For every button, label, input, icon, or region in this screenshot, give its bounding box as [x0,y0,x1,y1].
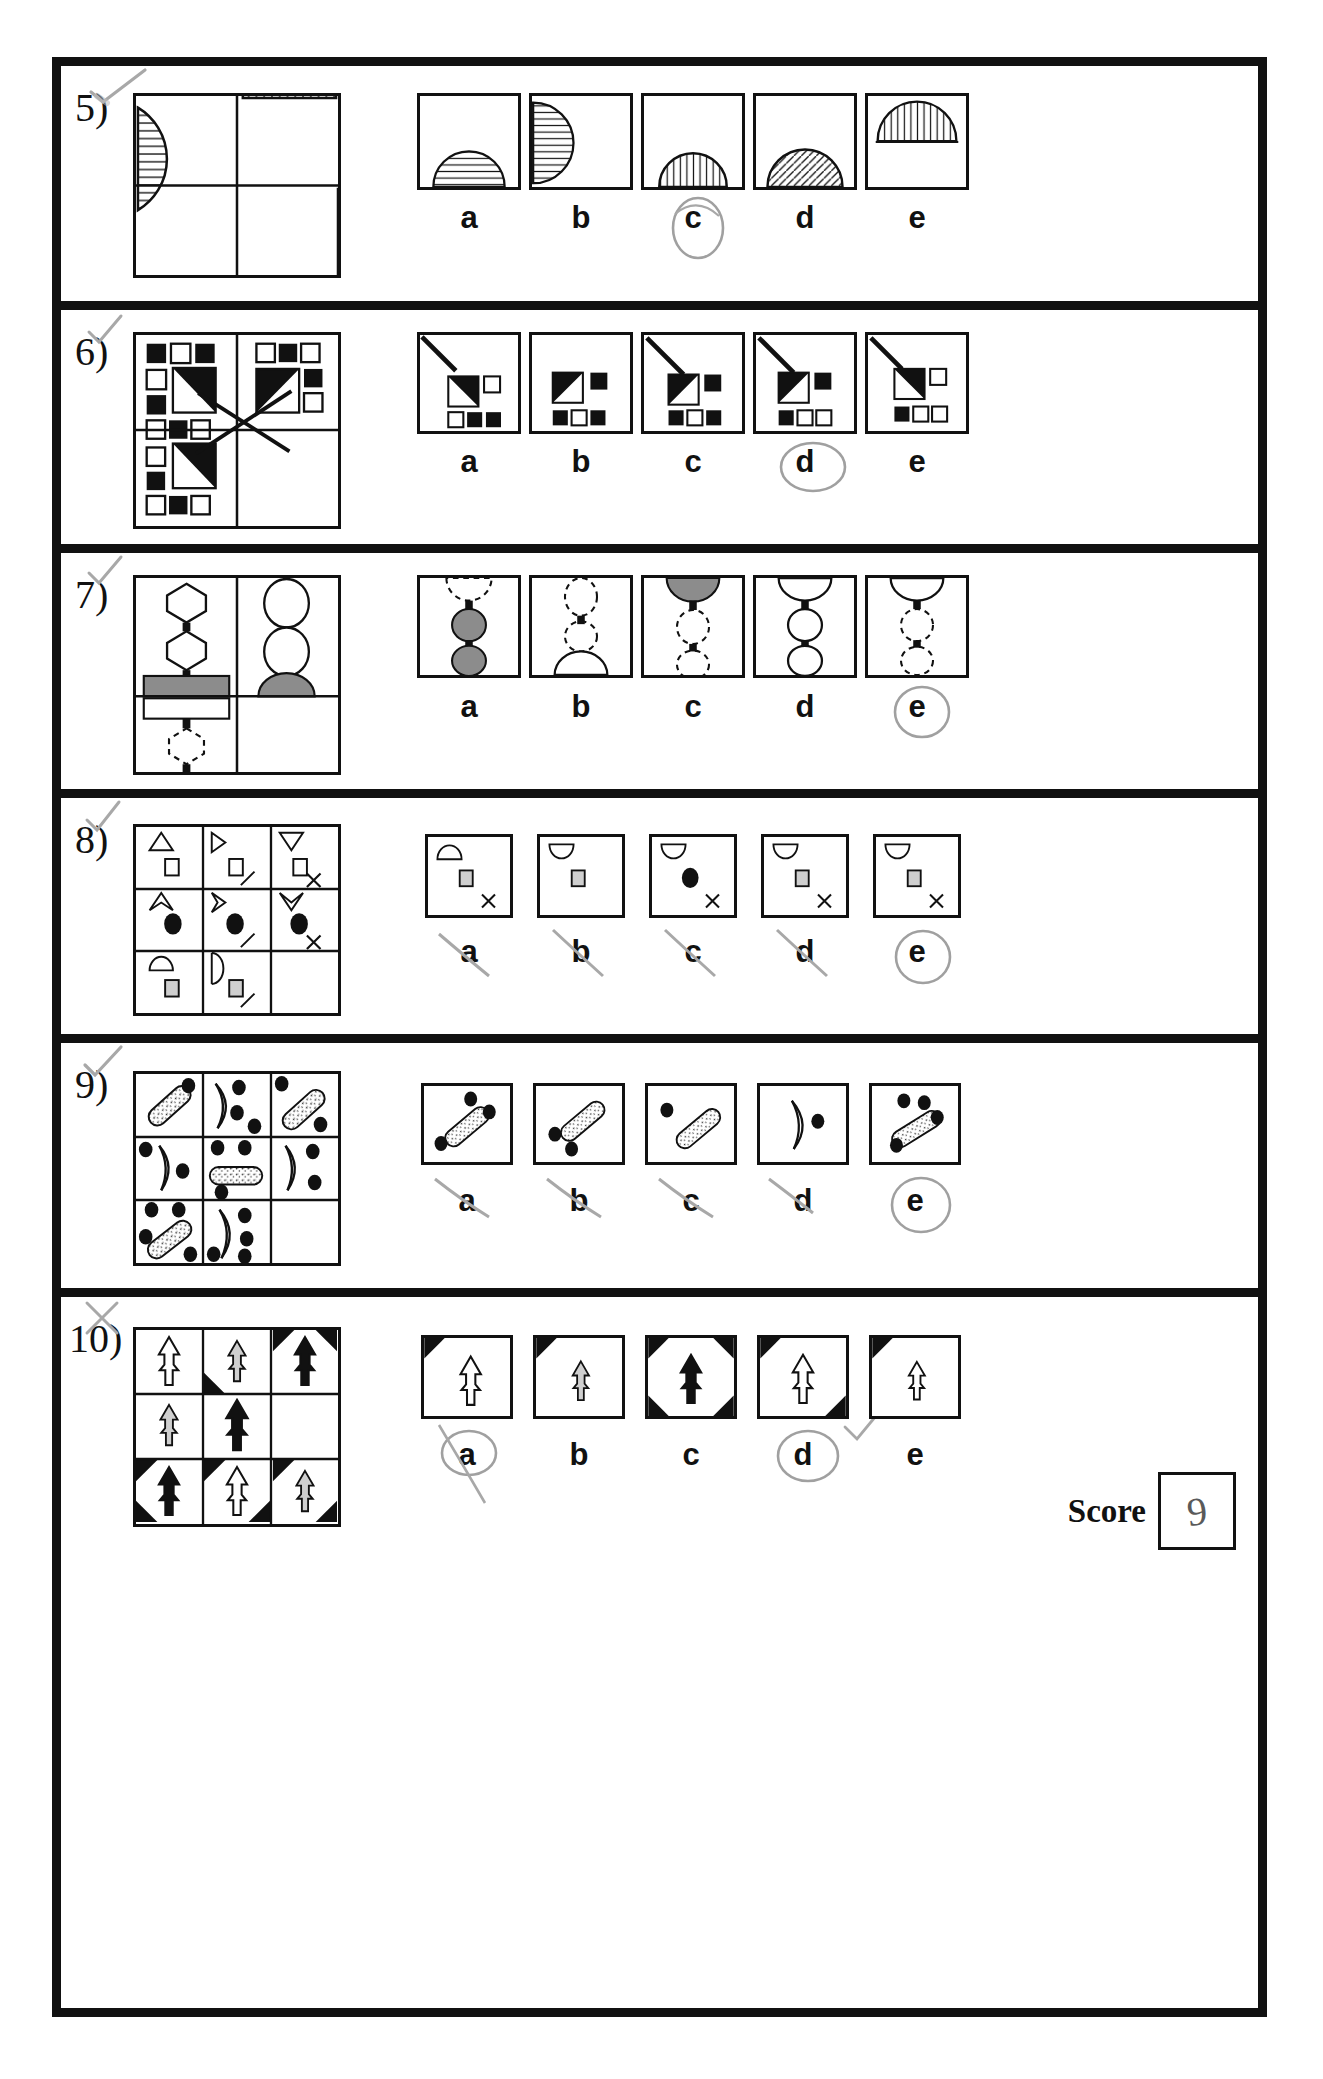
option-box-q7-a[interactable] [417,575,521,678]
option-label-q7-c[interactable]: c [641,689,745,725]
question-row-9: 9) [61,1043,1258,1297]
option-label-q8-e[interactable]: e [873,934,961,970]
option-label-q6-d[interactable]: d [753,444,857,480]
option-label-q6-c[interactable]: c [641,444,745,480]
option-box-q5-a[interactable] [417,93,521,190]
option-box-q10-b[interactable] [533,1335,625,1419]
option-label-q5-c[interactable]: c [641,200,745,236]
option-box-q8-c[interactable] [649,834,737,918]
option-box-q7-e[interactable] [865,575,969,678]
option-box-q8-d[interactable] [761,834,849,918]
option-box-q9-b[interactable] [533,1083,625,1165]
score-box[interactable]: 9 [1158,1472,1236,1550]
option-box-q6-b[interactable] [529,332,633,434]
option-label-q9-e[interactable]: e [869,1183,961,1219]
option-label-q9-a[interactable]: a [421,1183,513,1219]
matrix-q9 [133,1071,341,1266]
question-number-6: 6) [75,328,108,375]
question-row-6: 6) [61,310,1258,553]
option-box-q10-d[interactable] [757,1335,849,1419]
option-label-q10-d[interactable]: d [757,1437,849,1473]
option-label-q8-b[interactable]: b [537,934,625,970]
matrix-q6 [133,332,341,529]
option-label-q5-d[interactable]: d [753,200,857,236]
score-label: Score [1068,1493,1146,1530]
option-label-q9-d[interactable]: d [757,1183,849,1219]
option-label-q7-b[interactable]: b [529,689,633,725]
matrix-q10 [133,1327,341,1527]
option-label-q10-e[interactable]: e [869,1437,961,1473]
option-label-q10-b[interactable]: b [533,1437,625,1473]
option-box-q10-a[interactable] [421,1335,513,1419]
option-label-q7-e[interactable]: e [865,689,969,725]
option-label-q9-b[interactable]: b [533,1183,625,1219]
option-box-q7-b[interactable] [529,575,633,678]
option-box-q6-c[interactable] [641,332,745,434]
option-label-q5-e[interactable]: e [865,200,969,236]
option-box-q6-a[interactable] [417,332,521,434]
option-label-q10-a[interactable]: a [421,1437,513,1473]
option-label-q5-a[interactable]: a [417,200,521,236]
matrix-q8 [133,824,341,1016]
question-row-10: 10) [61,1297,1258,1566]
option-label-q7-a[interactable]: a [417,689,521,725]
question-row-5: 5) [61,66,1258,310]
option-box-q9-d[interactable] [757,1083,849,1165]
option-box-q9-a[interactable] [421,1083,513,1165]
option-label-q6-b[interactable]: b [529,444,633,480]
option-box-q6-e[interactable] [865,332,969,434]
question-number-9: 9) [75,1061,108,1108]
option-box-q5-d[interactable] [753,93,857,190]
option-box-q7-d[interactable] [753,575,857,678]
option-box-q7-c[interactable] [641,575,745,678]
question-number-7: 7) [75,571,108,618]
question-row-8: 8) [61,798,1258,1043]
question-row-7: 7) [61,553,1258,798]
option-label-q9-c[interactable]: c [645,1183,737,1219]
option-box-q9-e[interactable] [869,1083,961,1165]
matrix-q7 [133,575,341,775]
option-box-q8-e[interactable] [873,834,961,918]
option-box-q8-a[interactable] [425,834,513,918]
question-number-10: 10) [69,1315,122,1362]
option-box-q10-c[interactable] [645,1335,737,1419]
question-number-5: 5) [75,84,108,131]
option-box-q10-e[interactable] [869,1335,961,1419]
option-box-q6-d[interactable] [753,332,857,434]
option-label-q7-d[interactable]: d [753,689,857,725]
option-box-q5-b[interactable] [529,93,633,190]
score-area: Score 9 [1068,1472,1236,1550]
option-box-q8-b[interactable] [537,834,625,918]
answer-sheet: 5) [52,57,1267,2017]
matrix-q5 [133,93,341,278]
option-box-q5-e[interactable] [865,93,969,190]
option-label-q5-b[interactable]: b [529,200,633,236]
option-label-q8-a[interactable]: a [425,934,513,970]
option-box-q5-c[interactable] [641,93,745,190]
option-label-q6-a[interactable]: a [417,444,521,480]
question-number-8: 8) [75,816,108,863]
option-box-q9-c[interactable] [645,1083,737,1165]
option-label-q8-d[interactable]: d [761,934,849,970]
option-label-q10-c[interactable]: c [645,1437,737,1473]
option-label-q8-c[interactable]: c [649,934,737,970]
option-label-q6-e[interactable]: e [865,444,969,480]
score-value: 9 [1185,1487,1210,1536]
